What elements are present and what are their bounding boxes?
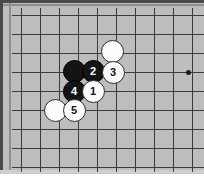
board-frame-top-edge — [0, 0, 204, 3]
stone-move-5[interactable]: 5 — [63, 99, 86, 122]
grid-line-horizontal-5 — [12, 110, 204, 111]
grid-line-horizontal-4 — [12, 91, 204, 92]
go-diagram-root: 23415 — [0, 0, 204, 185]
board-frame-inner-top-edge — [3, 4, 204, 6]
stone-label-move-1: 1 — [90, 86, 96, 97]
star-point-0 — [186, 70, 191, 75]
stone-label-move-5: 5 — [71, 105, 77, 116]
grid-line-horizontal-7 — [12, 148, 204, 149]
grid-line-horizontal-0 — [12, 15, 204, 16]
grid-line-horizontal-8 — [12, 167, 204, 168]
stone-label-move-3: 3 — [110, 67, 116, 78]
stone-label-move-4: 4 — [71, 86, 77, 97]
stone-white-unnumbered-top[interactable] — [101, 40, 124, 63]
stone-move-1[interactable]: 1 — [82, 80, 105, 103]
board-frame-left-edge — [0, 0, 3, 174]
grid-line-horizontal-1 — [12, 34, 204, 35]
stone-label-move-2: 2 — [90, 66, 96, 77]
stone-move-3[interactable]: 3 — [102, 61, 125, 84]
grid-line-horizontal-6 — [12, 129, 204, 130]
board-frame-inner-left-edge — [9, 3, 11, 174]
